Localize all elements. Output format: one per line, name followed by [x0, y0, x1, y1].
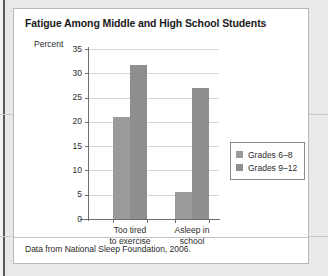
y-tick-label: 30 — [62, 69, 82, 78]
y-tick-label: 15 — [62, 142, 82, 151]
plot-region: Percent 05101520253035 Too tiredto exerc… — [14, 39, 308, 235]
bar — [175, 192, 192, 219]
y-tick-mark — [85, 146, 89, 147]
y-tick-mark — [85, 73, 89, 74]
x-tick-mark — [175, 219, 176, 223]
x-tick-mark — [209, 219, 210, 223]
legend-swatch-icon — [236, 151, 243, 158]
legend-entry: Grades 6–8 — [236, 148, 297, 161]
y-tick-label: 25 — [62, 93, 82, 102]
figure-card: Fatigue Among Middle and High School Stu… — [13, 8, 309, 264]
bar — [113, 117, 130, 219]
bar — [130, 65, 147, 219]
y-tick-label: 35 — [62, 45, 82, 54]
y-tick-label: 20 — [62, 117, 82, 126]
x-tick-mark — [113, 219, 114, 223]
page-edge-line — [3, 0, 5, 276]
y-tick-mark — [85, 49, 89, 50]
x-axis-line — [80, 219, 220, 220]
legend-label: Grades 6–8 — [248, 150, 292, 160]
bar — [192, 88, 209, 219]
gridline — [88, 49, 219, 50]
chart-title: Fatigue Among Middle and High School Stu… — [25, 17, 266, 29]
gridline — [88, 73, 219, 74]
chart-legend: Grades 6–8Grades 9–12 — [230, 142, 305, 180]
x-group-label-line: Asleep in — [147, 225, 237, 236]
x-tick-mark — [147, 219, 148, 223]
y-tick-label: 0 — [62, 215, 82, 224]
y-axis-title: Percent — [34, 39, 63, 49]
y-tick-mark — [85, 219, 89, 220]
y-tick-mark — [85, 195, 89, 196]
y-tick-mark — [85, 122, 89, 123]
legend-label: Grades 9–12 — [248, 163, 297, 173]
y-tick-label: 10 — [62, 166, 82, 175]
y-tick-mark — [85, 98, 89, 99]
y-tick-mark — [85, 170, 89, 171]
legend-entry: Grades 9–12 — [236, 161, 297, 174]
legend-swatch-icon — [236, 164, 243, 171]
source-divider — [14, 237, 308, 238]
y-tick-label: 5 — [62, 190, 82, 199]
source-note: Data from National Sleep Foundation, 200… — [25, 244, 191, 254]
